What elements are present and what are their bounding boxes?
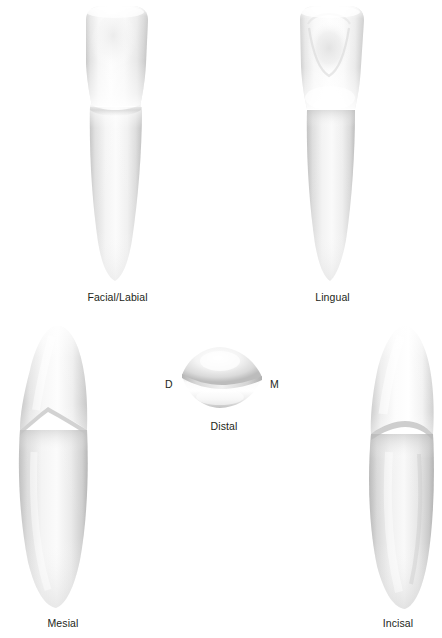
orientation-marker-mesial: M: [270, 379, 279, 390]
incisal-labial-highlight: [200, 351, 240, 371]
facial-tooth-illustration: [60, 2, 175, 290]
distal-tooth-illustration: [345, 322, 442, 612]
incisal-lingual-highlight: [196, 389, 244, 405]
orientation-marker-distal: D: [165, 379, 173, 390]
tooth-view-mesial: [8, 322, 118, 612]
cingulum-highlight: [305, 86, 355, 110]
tooth-view-distal: [345, 322, 442, 612]
view-label-lingual: Lingual: [275, 292, 390, 303]
tooth-view-lingual: [275, 2, 390, 290]
mesial-tooth-illustration: [8, 322, 118, 612]
lingual-tooth-illustration: [275, 2, 390, 290]
incisal-tooth-illustration: [176, 343, 272, 413]
view-label-mesial: Mesial: [8, 618, 118, 629]
tooth-view-incisal: [176, 343, 272, 413]
tooth-view-facial: [60, 2, 175, 290]
view-label-distal: Incisal: [345, 618, 442, 629]
facial-crown-shading: [90, 14, 140, 86]
view-label-incisal: Distal: [176, 421, 272, 432]
tooth-anatomy-figure: Facial/Labial: [0, 0, 442, 638]
incisal-edge-highlight: [86, 6, 144, 18]
view-label-facial: Facial/Labial: [60, 292, 175, 303]
